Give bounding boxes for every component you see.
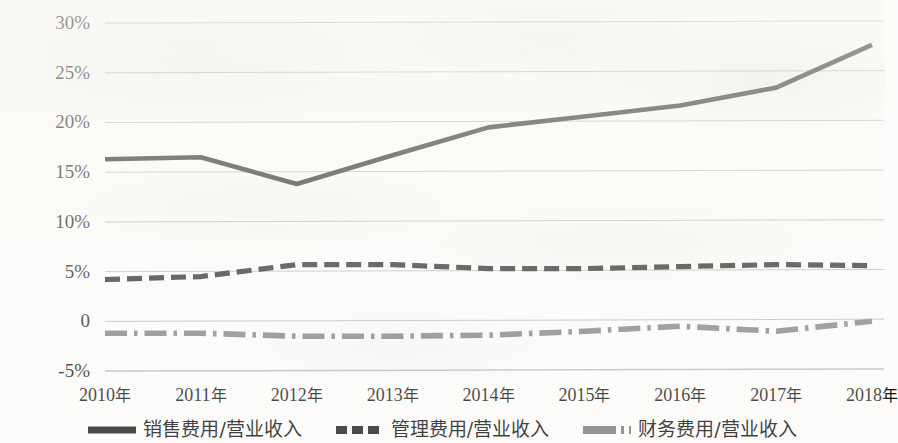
legend-item-0[interactable]: 销售费用/营业收入 [88,420,301,439]
x-tick-unit: 年 [882,386,898,405]
x-axis-tick-2017: 2017年 [750,386,802,404]
legend-swatch-dash-dot [583,424,631,436]
x-axis-tick-2010: 2010年 [79,386,131,404]
x-axis-tick-2018: 2018年 [846,386,898,404]
legend-item-1[interactable]: 管理费用/营业收入 [336,420,549,439]
chart-legend: 销售费用/营业收入管理费用/营业收入财务费用/营业收入 [0,416,885,443]
x-tick-year: 2011 [175,385,210,405]
x-tick-year: 2016 [654,385,690,405]
x-axis-tick-2011: 2011年 [175,386,226,404]
gridline--5 [105,369,884,371]
legend-label-0: 销售费用/营业收入 [143,420,301,439]
x-axis-tick-2014: 2014年 [463,386,515,404]
x-tick-year: 2013 [367,385,403,405]
x-axis-tick-2012: 2012年 [271,386,323,404]
x-tick-year: 2015 [558,385,594,405]
legend-label-1: 管理费用/营业收入 [391,420,549,439]
x-tick-unit: 年 [307,386,323,405]
x-tick-year: 2014 [463,385,499,405]
series-line-1 [105,265,872,280]
series-line-0 [105,45,872,184]
series-line-2 [105,321,872,336]
gridline-30 [105,21,884,23]
legend-item-2[interactable]: 财务费用/营业收入 [583,420,796,439]
x-tick-unit: 年 [786,386,802,405]
x-tick-unit: 年 [115,386,131,405]
x-tick-unit: 年 [499,386,515,405]
legend-swatch-solid [88,424,136,436]
x-axis-tick-2015: 2015年 [558,386,610,404]
gridline-25 [105,71,884,73]
gridline-15 [105,170,884,172]
x-tick-unit: 年 [690,386,706,405]
x-tick-unit: 年 [594,386,610,405]
gridline-10 [105,220,884,222]
gridlines [105,21,884,371]
data-series-layer [105,45,872,336]
x-tick-year: 2018 [846,385,882,405]
gridline-20 [105,120,884,122]
x-tick-year: 2012 [271,385,307,405]
x-axis-tick-2013: 2013年 [367,386,419,404]
x-tick-unit: 年 [211,386,227,405]
x-tick-unit: 年 [403,386,419,405]
x-tick-year: 2017 [750,385,786,405]
legend-swatch-dashed [336,424,384,436]
x-tick-year: 2010 [79,385,115,405]
x-axis-tick-2016: 2016年 [654,386,706,404]
legend-label-2: 财务费用/营业收入 [638,420,796,439]
gridline-0 [105,319,884,321]
